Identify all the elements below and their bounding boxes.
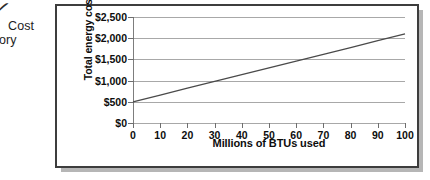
x-axis-tick bbox=[323, 123, 324, 128]
x-axis-tick bbox=[296, 123, 297, 128]
y-axis-tick-label: $500 bbox=[73, 96, 127, 108]
plot-area: 0102030405060708090100 bbox=[133, 17, 405, 123]
x-axis-tick bbox=[378, 123, 379, 128]
x-axis-tick bbox=[351, 123, 352, 128]
x-axis-tick bbox=[269, 123, 270, 128]
y-axis-tick-label: $2,000 bbox=[73, 32, 127, 44]
margin-text-line-2: ory bbox=[0, 33, 17, 47]
x-axis-tick bbox=[242, 123, 243, 128]
data-series-line bbox=[133, 17, 405, 123]
x-axis-title: Millions of BTUs used bbox=[133, 137, 405, 149]
y-axis-tick-labels: $0$500$1,000$1,500$2,000$2,500 bbox=[73, 4, 127, 168]
figure-shadow-bottom bbox=[61, 168, 423, 172]
y-axis-tick-label: $1,000 bbox=[73, 75, 127, 87]
y-axis-tick-label: $2,500 bbox=[73, 11, 127, 23]
figure-shadow-right bbox=[419, 10, 423, 172]
x-axis-tick bbox=[187, 123, 188, 128]
x-axis-tick bbox=[133, 123, 134, 128]
x-axis-tick bbox=[405, 123, 406, 128]
x-axis-tick bbox=[215, 123, 216, 128]
margin-text-line-1: Cost bbox=[8, 19, 34, 33]
y-axis-tick-label: $0 bbox=[73, 117, 127, 129]
y-axis-tick-label: $1,500 bbox=[73, 53, 127, 65]
series-line bbox=[133, 34, 405, 102]
checkmark-icon: ✓ bbox=[0, 0, 13, 21]
x-axis-tick bbox=[160, 123, 161, 128]
line-chart: Total energy cost $0$500$1,000$1,500$2,0… bbox=[55, 4, 419, 168]
margin-annotation: ✓ Cost ory bbox=[0, 0, 52, 56]
